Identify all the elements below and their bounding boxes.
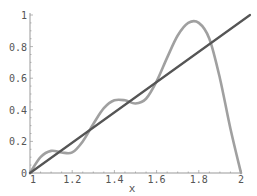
y-tick-label: 0.2 xyxy=(9,136,27,147)
x-axis-label: x xyxy=(129,182,136,195)
series-group xyxy=(30,15,250,173)
x-tick-label: 1 xyxy=(30,174,36,185)
series-line xyxy=(30,15,250,173)
y-tick-label: 0.4 xyxy=(9,105,27,116)
y-tick-label: 0.6 xyxy=(9,73,27,84)
y-tick-label: 1 xyxy=(21,10,27,21)
y-tick-label: 0 xyxy=(21,168,27,179)
x-tick-label: 1.4 xyxy=(105,174,123,185)
x-tick-label: 2 xyxy=(238,174,244,185)
x-tick-label: 1.2 xyxy=(63,174,81,185)
x-axis: 11.21.41.61.82 xyxy=(30,170,244,185)
y-axis: 00.20.40.60.81 xyxy=(9,10,33,179)
y-tick-label: 0.8 xyxy=(9,42,27,53)
chart: 11.21.41.61.82 00.20.40.60.81 x xyxy=(0,0,257,196)
x-tick-label: 1.6 xyxy=(148,174,166,185)
x-tick-label: 1.8 xyxy=(190,174,208,185)
